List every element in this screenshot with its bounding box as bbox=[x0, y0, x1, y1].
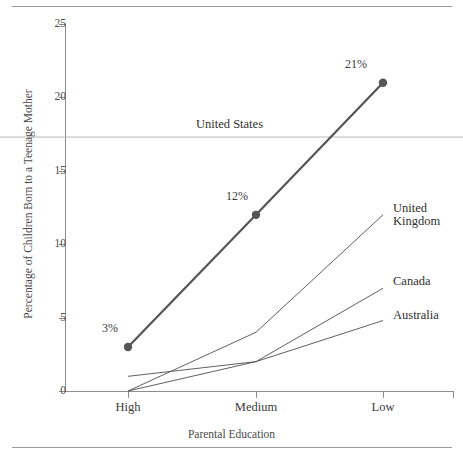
series-line-united-kingdom bbox=[128, 215, 383, 391]
data-label-medium: 12% bbox=[226, 189, 248, 204]
series-line-canada bbox=[128, 288, 383, 391]
reference-line-label-united-states: United States bbox=[196, 117, 263, 132]
data-point-marker bbox=[124, 343, 132, 351]
data-point-marker bbox=[252, 211, 260, 219]
series-line-australia bbox=[128, 321, 383, 377]
data-label-high: 3% bbox=[102, 321, 118, 336]
series-label-united-kingdom: United Kingdom bbox=[393, 202, 440, 229]
series-label-australia: Australia bbox=[393, 309, 439, 323]
chart-figure: 0510152025 HighMediumLow United States 3… bbox=[0, 0, 463, 455]
y-axis-title: Percentage of Children Born to a Teenage… bbox=[22, 44, 34, 364]
series-label-canada: Canada bbox=[393, 275, 430, 289]
data-point-marker bbox=[379, 79, 387, 87]
data-label-low: 21% bbox=[345, 57, 367, 72]
x-axis-title: Parental Education bbox=[0, 428, 463, 440]
